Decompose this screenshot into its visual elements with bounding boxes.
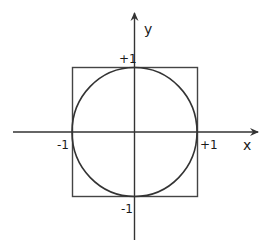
diagram-canvas: y x +1 -1 -1 +1 — [0, 0, 272, 247]
y-axis-label: y — [144, 21, 152, 37]
tick-label-x-pos: +1 — [200, 138, 218, 152]
tick-label-y-pos: +1 — [119, 52, 137, 66]
tick-label-x-neg: -1 — [57, 138, 69, 152]
x-axis-label: x — [243, 137, 251, 153]
tick-label-y-neg: -1 — [121, 202, 133, 216]
